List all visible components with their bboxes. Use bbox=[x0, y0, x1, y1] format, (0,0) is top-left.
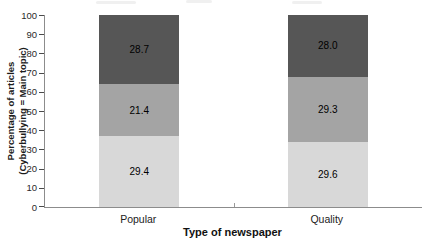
y-axis-tick-label: 60 bbox=[5, 86, 37, 97]
scan-artifact bbox=[96, 1, 136, 4]
y-axis-tick-label: 0 bbox=[5, 202, 37, 213]
segment-value-label: 29.3 bbox=[318, 104, 337, 115]
stacked-bar-popular[interactable]: 28.721.429.4 bbox=[99, 15, 179, 207]
y-axis-tick-label: 10 bbox=[5, 182, 37, 193]
bar-segment-bottom-segment[interactable]: 29.6 bbox=[288, 142, 368, 207]
y-axis-tick bbox=[39, 15, 44, 16]
y-axis-tick-label: 30 bbox=[5, 144, 37, 155]
y-axis-tick bbox=[39, 169, 44, 170]
x-axis-title: Type of newspaper bbox=[44, 226, 421, 238]
x-axis-mid-tick bbox=[234, 203, 235, 207]
scan-artifact bbox=[186, 0, 212, 3]
segment-value-label: 29.4 bbox=[130, 166, 149, 177]
y-axis-tick bbox=[39, 206, 44, 207]
y-axis-tick bbox=[39, 53, 44, 54]
segment-value-label: 29.6 bbox=[318, 169, 337, 180]
plot-area: 010203040506070809010028.721.429.428.029… bbox=[44, 15, 422, 208]
y-axis-tick-label: 40 bbox=[5, 125, 37, 136]
category-label-popular: Popular bbox=[120, 213, 156, 225]
y-axis-tick bbox=[39, 34, 44, 35]
segment-value-label: 21.4 bbox=[130, 105, 149, 116]
segment-value-label: 28.0 bbox=[318, 40, 337, 51]
y-axis-tick-label: 20 bbox=[5, 163, 37, 174]
y-axis-tick-label: 90 bbox=[5, 29, 37, 40]
bar-segment-bottom-segment[interactable]: 29.4 bbox=[99, 136, 179, 207]
y-axis-tick bbox=[39, 188, 44, 189]
y-axis-tick bbox=[39, 92, 44, 93]
bar-segment-top-segment[interactable]: 28.0 bbox=[288, 15, 368, 77]
scan-artifact bbox=[292, 1, 322, 4]
stacked-bar-chart-figure: Percentage of articles (Cyberbullying = … bbox=[0, 0, 423, 247]
y-axis-tick bbox=[39, 149, 44, 150]
y-axis-tick-label: 70 bbox=[5, 67, 37, 78]
y-axis-tick bbox=[39, 130, 44, 131]
y-axis-tick-label: 50 bbox=[5, 106, 37, 117]
category-label-quality: Quality bbox=[310, 213, 343, 225]
bar-segment-middle-segment[interactable]: 21.4 bbox=[99, 84, 179, 136]
bar-segment-middle-segment[interactable]: 29.3 bbox=[288, 77, 368, 142]
bar-segment-top-segment[interactable]: 28.7 bbox=[99, 15, 179, 84]
y-axis-tick bbox=[39, 111, 44, 112]
y-axis-tick-label: 100 bbox=[5, 10, 37, 21]
y-axis-tick-label: 80 bbox=[5, 48, 37, 59]
y-axis-tick bbox=[39, 73, 44, 74]
stacked-bar-quality[interactable]: 28.029.329.6 bbox=[288, 15, 368, 207]
segment-value-label: 28.7 bbox=[130, 44, 149, 55]
category-label-row: PopularQuality bbox=[44, 213, 421, 226]
